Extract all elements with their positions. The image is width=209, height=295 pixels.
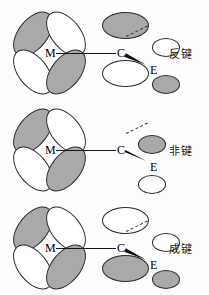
diagram-row-nonbonding: M C E 非键 (0, 99, 209, 197)
bond-metal-carbon (56, 150, 116, 151)
atom-label-metal: M (45, 242, 56, 254)
atom-label-metal: M (45, 144, 56, 156)
diagram-row-antibonding: M C E 反键 (0, 2, 209, 100)
substituent-lobe-lower (138, 175, 166, 194)
atom-label-substituent: E (150, 64, 157, 76)
atom-label-substituent: E (150, 259, 157, 271)
row-label-antibonding: 反键 (169, 45, 192, 61)
substituent-lobe-lower (152, 75, 180, 94)
atom-label-metal: M (45, 47, 56, 59)
bond-metal-carbon (56, 248, 116, 249)
atom-label-carbon: C (117, 242, 125, 254)
bond-carbon-dashed (126, 123, 148, 134)
diagram-row-bonding: M C E 成键 (0, 197, 209, 295)
row-label-bonding: 成键 (169, 240, 192, 256)
atom-label-carbon: C (117, 47, 125, 59)
substituent-lobe-upper (138, 135, 166, 154)
bond-metal-carbon (56, 53, 116, 54)
row-label-nonbonding: 非键 (169, 142, 192, 158)
orbital-interaction-diagram: M C E 反键 M C E 非键 M C E 成键 (0, 0, 209, 295)
atom-label-substituent: E (150, 161, 157, 173)
substituent-lobe-lower (152, 270, 180, 289)
atom-label-carbon: C (117, 144, 125, 156)
